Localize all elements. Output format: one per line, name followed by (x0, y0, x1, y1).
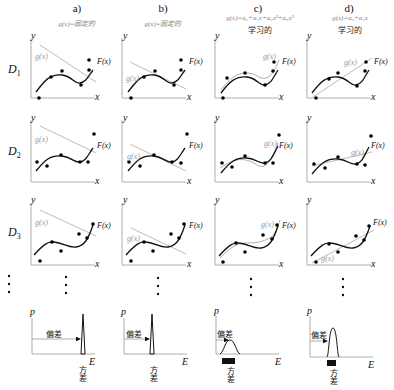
plot-d1-b (122, 38, 186, 100)
axis-x-label: x (95, 91, 99, 102)
g-curve-label: g(x) (127, 234, 140, 243)
plot-d1-a (31, 38, 96, 100)
dist-a (32, 314, 95, 354)
F-curve-label: F(x) (373, 218, 387, 227)
axis-x-label: x (279, 175, 283, 186)
axis-y-label: y (307, 112, 311, 123)
axis-p-label: p (307, 305, 312, 316)
axis-y-label: y (123, 30, 127, 41)
F-curve-label: F(x) (189, 57, 203, 66)
g-curve-label: g(x) (127, 152, 140, 161)
axis-x-label: x (371, 258, 375, 269)
axis-x-label: x (279, 258, 283, 269)
g-curve-label: g(x) (351, 148, 364, 157)
axis-E-label: E (275, 356, 281, 367)
variance-label: 方差 (224, 367, 235, 383)
axis-x-label: x (187, 258, 191, 269)
variance-label: 方差 (147, 366, 158, 382)
bias-label: 偏差 (311, 329, 327, 340)
axis-E-label: E (89, 356, 95, 367)
F-curve-label: F(x) (279, 141, 293, 150)
axis-y-label: y (123, 194, 127, 205)
axis-y-label: y (307, 194, 311, 205)
F-curve-label: F(x) (282, 57, 296, 66)
axis-y-label: y (215, 112, 219, 123)
g-curve-label: g(x) (35, 218, 48, 227)
axis-p-label: p (121, 306, 126, 317)
axis-x-label: x (371, 91, 375, 102)
axis-x-label: x (187, 91, 191, 102)
F-curve-label: F(x) (374, 57, 388, 66)
g-curve-label: g(x) (126, 74, 139, 83)
axis-x-label: x (371, 175, 375, 186)
axis-x-label: x (279, 91, 283, 102)
g-curve-label: g(x) (35, 135, 48, 144)
g-curve-label: g(x) (321, 254, 334, 263)
plot-d3-d (307, 203, 374, 265)
bias-label: 偏差 (46, 328, 62, 339)
axis-y-label: y (123, 112, 127, 123)
F-curve-label: F(x) (189, 141, 203, 150)
plot-d3-c (215, 203, 280, 265)
axis-y-label: y (31, 194, 35, 205)
axis-x-label: x (95, 175, 99, 186)
bias-label: 偏差 (126, 328, 142, 339)
F-curve-label: F(x) (189, 221, 203, 230)
axis-x-label: x (187, 175, 191, 186)
axis-E-label: E (368, 359, 374, 370)
variance-label: 方差 (76, 366, 87, 382)
g-curve-label: g(x) (261, 220, 274, 229)
axis-p-label: p (30, 306, 35, 317)
plot-d1-c (215, 38, 279, 100)
g-curve-label: g(x) (264, 139, 277, 148)
axis-y-label: y (215, 30, 219, 41)
variance-label: 方差 (327, 369, 338, 385)
plot-d1-d (307, 38, 372, 100)
axis-y-label: y (307, 30, 311, 41)
axis-E-label: E (182, 356, 188, 367)
axis-p-label: p (214, 305, 219, 316)
F-curve-label: F(x) (97, 141, 111, 150)
F-curve-label: F(x) (371, 141, 385, 150)
g-curve-label: g(x) (344, 58, 357, 67)
axis-y-label: y (31, 112, 35, 123)
ellipsis-dots (8, 275, 344, 296)
plot-d2-c (215, 120, 281, 182)
g-curve-label: g(x) (263, 52, 276, 61)
axis-y-label: y (215, 194, 219, 205)
axis-y-label: y (31, 30, 35, 41)
F-curve-label: F(x) (282, 221, 296, 230)
g-curve-label: g(x) (35, 52, 48, 61)
dist-c (216, 316, 279, 364)
axis-x-label: x (95, 258, 99, 269)
bias-label: 偏差 (217, 328, 233, 339)
F-curve-label: F(x) (97, 57, 111, 66)
plot-d2-b (122, 120, 189, 182)
F-curve-label: F(x) (97, 221, 111, 230)
plot-d2-a (31, 120, 96, 182)
dist-d (310, 316, 373, 366)
plot-d3-a (31, 203, 96, 265)
